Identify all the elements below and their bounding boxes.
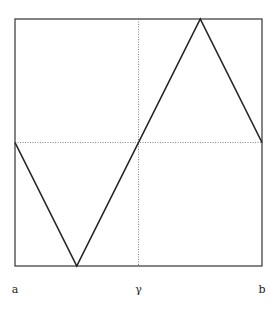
plot-area bbox=[0, 0, 276, 309]
x-tick-label: a bbox=[12, 283, 19, 296]
x-tick-label: b bbox=[258, 283, 265, 296]
x-tick-label: γ bbox=[135, 283, 142, 296]
series-line-zigzag bbox=[15, 19, 262, 266]
